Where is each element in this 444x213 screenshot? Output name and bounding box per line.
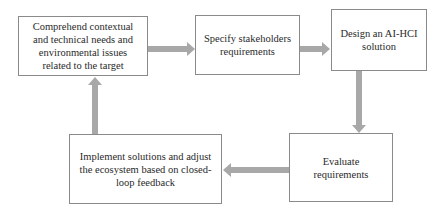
node-design-line-2: solution [341,40,418,53]
node-specify-requirements: Specify stakeholders requirements [195,15,300,75]
arrow-specify-to-design [300,42,330,56]
node-comprehend-needs: Comprehend contextual and technical need… [18,16,148,76]
node-specify-text: Specify stakeholders requirements [204,32,291,58]
node-evaluate-text: Evaluate requirements [314,155,369,181]
node-implement-text: Implement solutions and adjust the ecosy… [80,150,212,189]
node-comprehend-line-3: environmental issues [33,46,134,59]
node-comprehend-line-4: related to the target [33,59,134,72]
arrow-evaluate-to-implement [223,163,289,177]
node-design-line-1: Design an AI-HCI [341,27,418,40]
node-comprehend-line-2: and technical needs and [33,33,134,46]
node-implement-solutions: Implement solutions and adjust the ecosy… [69,134,222,204]
arrow-implement-to-comprehend [88,77,102,134]
node-specify-line-1: Specify stakeholders [204,32,291,45]
node-implement-line-2: the ecosystem based on closed- [80,163,212,176]
node-comprehend-line-1: Comprehend contextual [33,20,134,33]
node-evaluate-line-1: Evaluate [314,155,369,168]
node-comprehend-text: Comprehend contextual and technical need… [33,20,134,72]
node-specify-line-2: requirements [204,45,291,58]
arrow-design-to-evaluate [352,71,366,133]
node-evaluate-requirements: Evaluate requirements [289,133,393,202]
node-design-solution: Design an AI-HCI solution [331,9,427,71]
node-implement-line-1: Implement solutions and adjust [80,150,212,163]
arrow-comprehend-to-specify [148,42,195,56]
node-evaluate-line-2: requirements [314,168,369,181]
node-design-text: Design an AI-HCI solution [341,27,418,53]
node-implement-line-3: loop feedback [80,176,212,189]
